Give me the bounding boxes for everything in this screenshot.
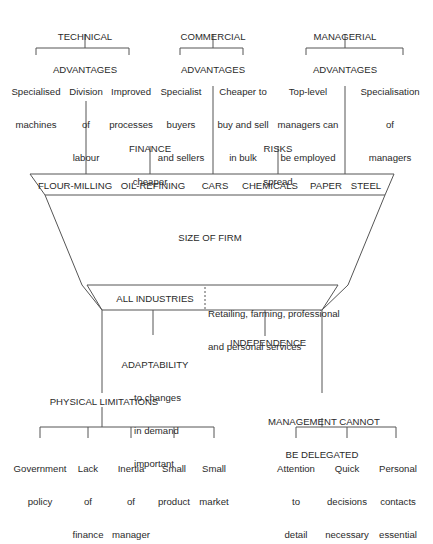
item-division-of-labour: Division of labour — [64, 64, 108, 185]
item-line: machines — [8, 119, 64, 130]
independence-label: INDEPENDENCE — [230, 337, 302, 348]
all-industries-label: ALL INDUSTRIES — [108, 293, 202, 304]
industry-flour-milling: FLOUR-MILLING — [38, 180, 112, 191]
item-line: Quick — [324, 463, 370, 474]
physical-limitations-title: PHYSICAL LIMITATIONS — [45, 396, 163, 407]
item-line: of — [110, 496, 152, 507]
item-line: of — [70, 496, 106, 507]
item-line: essential — [376, 529, 420, 540]
item-line: necessary — [324, 529, 370, 540]
industry-chemicals: CHEMICALS — [240, 180, 300, 191]
item-line: labour — [64, 152, 108, 163]
item-line: Small — [154, 463, 194, 474]
item-line: of — [357, 119, 423, 130]
item-lack-of-finance: Lack of finance — [70, 441, 106, 544]
title-line: COMMERCIAL — [171, 31, 255, 42]
label-line: Retailing, farming, professional — [208, 308, 338, 319]
item-line: Lack — [70, 463, 106, 474]
item-line: Top-level — [277, 86, 339, 97]
finance-cheaper-label: FINANCE cheaper — [122, 121, 178, 209]
item-line: Government — [10, 463, 70, 474]
title-line: MANAGEMENT CANNOT — [268, 416, 376, 427]
item-small-market: Small market — [196, 441, 232, 529]
item-attention-to-detail: Attention to detail — [274, 441, 318, 544]
item-line: to — [274, 496, 318, 507]
item-quick-decisions: Quick decisions necessary — [324, 441, 370, 544]
size-of-firm-label: SIZE OF FIRM — [160, 232, 260, 243]
label-line: FINANCE — [122, 143, 178, 154]
item-line: of — [64, 119, 108, 130]
label-line: in demand — [120, 425, 190, 436]
item-line: Improved — [108, 86, 154, 97]
item-line: Attention — [274, 463, 318, 474]
item-line: Specialisation — [357, 86, 423, 97]
item-line: Cheaper to — [214, 86, 272, 97]
item-small-product: Small product — [154, 441, 194, 529]
item-line: finance — [70, 529, 106, 540]
risks-spread-label: RISKS spread — [252, 121, 304, 209]
item-line: decisions — [324, 496, 370, 507]
item-line: managers — [357, 152, 423, 163]
item-line: market — [196, 496, 232, 507]
title-line: MANAGERIAL — [303, 31, 387, 42]
item-line: Division — [64, 86, 108, 97]
label-line: ADAPTABILITY — [120, 359, 190, 370]
item-line: detail — [274, 529, 318, 540]
item-line: Small — [196, 463, 232, 474]
industry-steel: STEEL — [349, 180, 383, 191]
item-line: Specialised — [8, 86, 64, 97]
industry-oil-refining: OIL-REFINING — [120, 180, 186, 191]
industry-cars: CARS — [198, 180, 232, 191]
title-line: TECHNICAL — [45, 31, 125, 42]
industry-paper: PAPER — [308, 180, 344, 191]
item-specialisation-managers: Specialisation of managers — [357, 64, 423, 185]
item-personal-contacts: Personal contacts essential — [376, 441, 420, 544]
item-line: contacts — [376, 496, 420, 507]
item-line: policy — [10, 496, 70, 507]
item-line: Personal — [376, 463, 420, 474]
item-inertia-of-manager: Inertia of manager — [110, 441, 152, 544]
item-line: manager — [110, 529, 152, 540]
label-line: RISKS — [252, 143, 304, 154]
item-line: product — [154, 496, 194, 507]
item-line: Specialist — [155, 86, 207, 97]
item-specialised-machines: Specialised machines — [8, 64, 64, 152]
item-government-policy: Government policy — [10, 441, 70, 529]
retailing-services-label: Retailing, farming, professional and per… — [208, 286, 338, 374]
item-line: Inertia — [110, 463, 152, 474]
